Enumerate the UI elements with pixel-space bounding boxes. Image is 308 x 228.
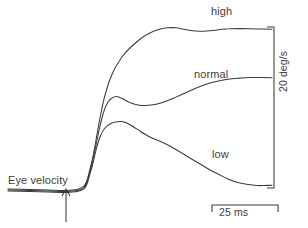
time-scale-label: 25 ms: [219, 206, 248, 218]
vertical-scale-label: 20 deg/s: [277, 51, 289, 92]
trace-label-low: low: [212, 148, 229, 160]
trace-label-high: high: [211, 5, 232, 17]
plot-canvas: [0, 0, 308, 228]
trace-label-normal: normal: [194, 68, 228, 80]
trace-high-path: [8, 28, 272, 191]
vertical-scale-bar: [267, 27, 274, 188]
baseline-label: Eye velocity: [8, 174, 68, 186]
eye-velocity-figure: high normal low Eye velocity 20 deg/s 25…: [0, 0, 308, 228]
